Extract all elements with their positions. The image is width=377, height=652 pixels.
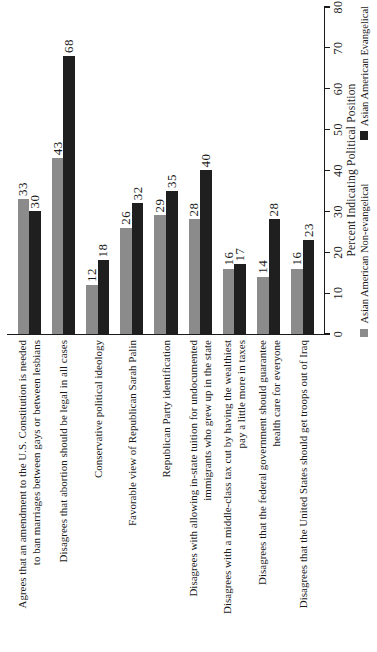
value-axis-tick [325, 88, 330, 89]
value-axis-tick-label: 40 [331, 164, 346, 177]
rotated-chart-container: Agrees that an amendment to the U.S. Con… [0, 0, 377, 652]
legend-item: Asian American Evangelical [359, 6, 370, 140]
chart-legend: Asian American Non-evangelicalAsian Amer… [359, 6, 370, 337]
legend-item: Asian American Non-evangelical [359, 184, 370, 337]
value-axis-tick [325, 333, 330, 334]
value-axis-tick-label: 50 [331, 123, 346, 136]
legend-swatch [360, 329, 369, 338]
value-axis-tick-label: 80 [331, 1, 346, 14]
value-axis-tick [325, 129, 330, 130]
legend-label: Asian American Non-evangelical [359, 184, 370, 324]
value-axis-tick-label: 0 [331, 331, 346, 338]
value-axis-tick [325, 293, 330, 294]
legend-label: Asian American Evangelical [359, 6, 370, 126]
book-figure-page: Agrees that an amendment to the U.S. Con… [0, 0, 377, 652]
value-axis-tick [325, 211, 330, 212]
value-axis-tick [325, 47, 330, 48]
value-axis-tick [325, 6, 330, 7]
tick-layer: 01020304050607080 [0, 0, 377, 652]
value-axis-tick-label: 70 [331, 41, 346, 54]
legend-swatch [360, 131, 369, 140]
value-axis-title: Percent Indicating Political Position [345, 6, 357, 334]
value-axis-tick-label: 30 [331, 205, 346, 218]
value-axis-tick-label: 60 [331, 82, 346, 95]
value-axis-tick-label: 10 [331, 287, 346, 300]
value-axis-tick [325, 252, 330, 253]
bar-chart: Agrees that an amendment to the U.S. Con… [0, 0, 377, 652]
value-axis-tick [325, 170, 330, 171]
value-axis-tick-label: 20 [331, 246, 346, 259]
